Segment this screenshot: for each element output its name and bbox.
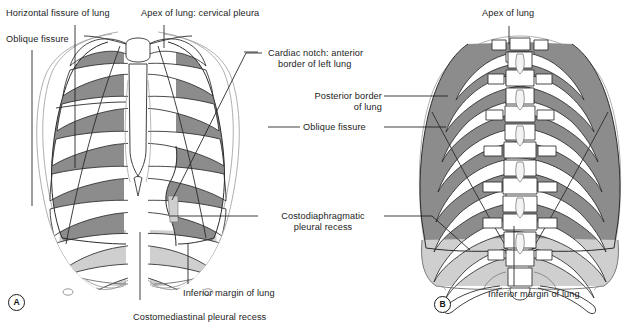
panel-a-anterior (30, 30, 246, 300)
label-costodiaphragmatic-line1: Costodiaphragmatic (264, 211, 382, 222)
panel-b-posterior (410, 30, 630, 314)
panel-label-a: A (8, 294, 25, 311)
label-inferior-margin-a: Inferior margin of lung (183, 288, 275, 299)
panel-label-b: B (434, 296, 451, 313)
label-posterior-border-line2: of lung (272, 102, 382, 113)
label-oblique-fissure-mid: Oblique fissure (303, 122, 366, 133)
label-apex-of-lung-b: Apex of lung (482, 8, 534, 19)
label-oblique-fissure-left: Oblique fissure (6, 34, 69, 45)
label-apex-cervical-pleura: Apex of lung: cervical pleura (141, 8, 259, 19)
label-horizontal-fissure: Horizontal fissure of lung (6, 8, 110, 19)
label-posterior-border-line1: Posterior border (272, 91, 382, 102)
label-inferior-margin-b: Inferior margin of lung (488, 289, 580, 300)
figure-canvas: Horizontal fissure of lung Oblique fissu… (0, 0, 640, 327)
label-cardiac-notch-line2: border of left lung (278, 59, 351, 70)
label-costodiaphragmatic-line2: pleural recess (264, 222, 382, 233)
label-costomediastinal: Costomediastinal pleural recess (133, 312, 266, 323)
label-cardiac-notch-line1: Cardiac notch: anterior (268, 48, 363, 59)
